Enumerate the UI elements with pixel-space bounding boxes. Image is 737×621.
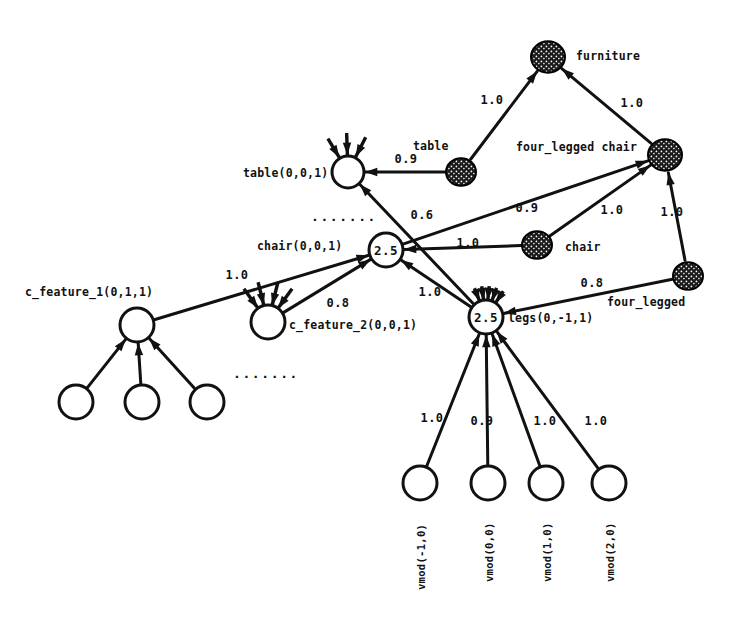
node-chair_concept[interactable] bbox=[522, 231, 552, 259]
edge-e-legs-chairinst bbox=[401, 260, 471, 307]
edge-weight-label: 0.9 bbox=[395, 152, 418, 166]
node-shape-filled[interactable] bbox=[648, 139, 682, 170]
node-four_legged[interactable] bbox=[673, 262, 703, 290]
edge-weight-label: 1.0 bbox=[601, 203, 624, 217]
node-value-legs_instance: 2.5 bbox=[474, 310, 498, 325]
node-shape-open[interactable] bbox=[251, 305, 285, 339]
edge-weight-label: 1.0 bbox=[585, 414, 608, 428]
node-vmod_2[interactable] bbox=[592, 466, 626, 500]
edge-weight-label: 1.0 bbox=[421, 411, 444, 425]
node-table_concept[interactable] bbox=[446, 158, 476, 186]
node-label-chair_instance: chair(0,0,1) bbox=[257, 239, 342, 253]
edge-weight-label: 0.6 bbox=[411, 208, 434, 222]
node-shape-filled[interactable] bbox=[522, 231, 552, 259]
node-label-four_legged: four_legged bbox=[607, 295, 685, 309]
edge-e-cf1child2-cf1 bbox=[135, 343, 143, 384]
edge-weight-label: 1.0 bbox=[457, 236, 480, 250]
arrow-head bbox=[482, 335, 490, 347]
edge-line bbox=[486, 335, 488, 465]
ellipsis-c-feature-2-ellipsis: ....... bbox=[233, 366, 299, 381]
node-vmod_m1[interactable] bbox=[403, 466, 437, 500]
node-furniture[interactable] bbox=[531, 41, 565, 72]
node-shape-open[interactable] bbox=[125, 385, 159, 419]
arrow-head bbox=[471, 334, 479, 347]
node-shape-open[interactable] bbox=[59, 385, 93, 419]
node-c_feature_2[interactable] bbox=[251, 305, 285, 339]
node-shape-open[interactable] bbox=[529, 466, 563, 500]
node-shape-filled[interactable] bbox=[446, 158, 476, 186]
edge-line bbox=[492, 334, 540, 466]
node-layer bbox=[59, 41, 703, 500]
edge-e-vmod2-legs bbox=[497, 331, 599, 468]
arrow-head bbox=[356, 144, 365, 157]
edge-e-vmodm1-legs bbox=[427, 334, 480, 467]
node-label-legs_instance: legs(0,-1,1) bbox=[508, 311, 593, 325]
arrow-head bbox=[343, 143, 351, 155]
node-label-furniture: furniture bbox=[576, 49, 640, 63]
node-four_legged_chair[interactable] bbox=[648, 139, 682, 170]
arrow-head bbox=[257, 293, 265, 306]
vertical-label-vmod_2_label: vmod(2,0) bbox=[604, 522, 616, 582]
node-cf1_child_1[interactable] bbox=[59, 385, 93, 419]
edge-weight-label: 1.0 bbox=[226, 268, 249, 282]
node-shape-open[interactable] bbox=[332, 156, 364, 188]
node-label-chair_concept: chair bbox=[565, 240, 601, 254]
node-label-four_legged_chair: four_legged chair bbox=[516, 140, 637, 154]
node-vmod_1[interactable] bbox=[529, 466, 563, 500]
edge-weight-label: 0.9 bbox=[471, 414, 494, 428]
stubs-table-instance-stubs bbox=[328, 133, 366, 157]
node-label-table_concept: table bbox=[413, 139, 449, 153]
node-label-table_instance: table(0,0,1) bbox=[243, 166, 328, 180]
node-label-c_feature_2: c_feature_2(0,0,1) bbox=[289, 318, 417, 332]
edge-e-vmod0-legs bbox=[482, 335, 490, 465]
vertical-label-vmod_1_label: vmod(1,0) bbox=[541, 522, 553, 582]
vertical-label-vmod_0_label: vmod(0,0) bbox=[483, 522, 495, 582]
edge-weight-label: 0.8 bbox=[327, 296, 350, 310]
edge-line bbox=[401, 260, 471, 307]
diagram-canvas: 1.01.00.90.91.01.01.00.60.81.01.00.81.00… bbox=[0, 0, 737, 621]
edge-e-vmod1-legs bbox=[492, 334, 540, 466]
vertical-label-vmod_m1_label: vmod(-1,0) bbox=[415, 524, 427, 590]
edge-weight-label: 1.0 bbox=[481, 93, 504, 107]
node-shape-filled[interactable] bbox=[531, 41, 565, 72]
edge-e-tableinst-table bbox=[365, 168, 445, 176]
edge-weight-label: 0.8 bbox=[581, 276, 604, 290]
node-shape-open[interactable] bbox=[403, 466, 437, 500]
edge-weight-label: 0.9 bbox=[516, 201, 539, 215]
ellipsis-table-instance-ellipsis: ....... bbox=[311, 209, 377, 224]
edge-line bbox=[427, 334, 480, 467]
edge-weight-label: 1.0 bbox=[661, 205, 684, 219]
node-shape-filled[interactable] bbox=[673, 262, 703, 290]
edge-line bbox=[497, 331, 599, 468]
node-shape-open[interactable] bbox=[471, 466, 505, 500]
edge-e-cf1child3-cf1 bbox=[149, 338, 195, 388]
arrow-head bbox=[271, 293, 279, 306]
graph-svg bbox=[0, 0, 737, 621]
node-cf1_child_3[interactable] bbox=[190, 385, 224, 419]
node-shape-open[interactable] bbox=[592, 466, 626, 500]
edge-layer bbox=[87, 69, 685, 469]
edge-weight-label: 1.0 bbox=[419, 285, 442, 299]
node-value-chair_instance: 2.5 bbox=[374, 243, 398, 258]
node-cf1_child_2[interactable] bbox=[125, 385, 159, 419]
edge-e-cf1child1-cf1 bbox=[87, 339, 126, 388]
node-c_feature_1[interactable] bbox=[120, 308, 154, 342]
node-table_instance[interactable] bbox=[332, 156, 364, 188]
arrow-head bbox=[365, 168, 377, 176]
arrow-head bbox=[471, 288, 480, 301]
node-label-c_feature_1: c_feature_1(0,1,1) bbox=[25, 285, 153, 299]
node-vmod_0[interactable] bbox=[471, 466, 505, 500]
node-shape-open[interactable] bbox=[120, 308, 154, 342]
node-shape-open[interactable] bbox=[190, 385, 224, 419]
edge-weight-label: 1.0 bbox=[621, 96, 644, 110]
arrow-head bbox=[404, 245, 416, 253]
edge-weight-label: 1.0 bbox=[534, 414, 557, 428]
